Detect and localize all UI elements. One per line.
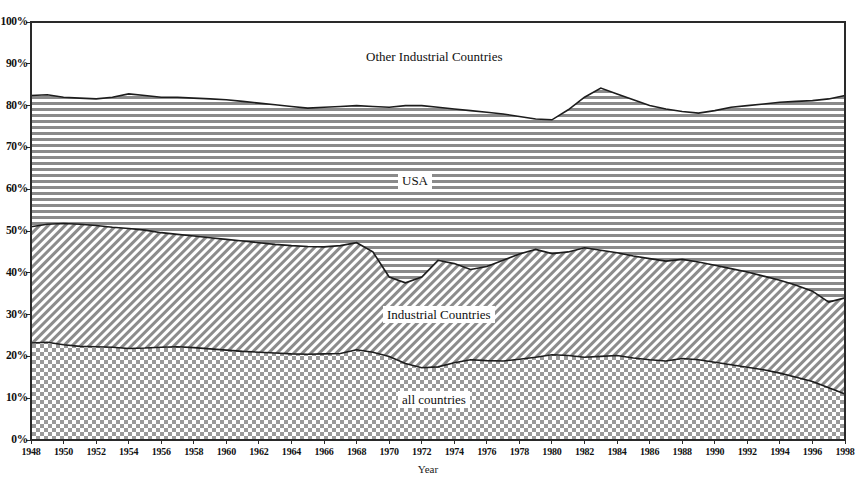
x-tick-label: 1986 [633,446,667,457]
x-tick-label: 1996 [795,446,829,457]
x-tick-label: 1972 [405,446,439,457]
series-label-industrial: Industrial Countries [383,306,495,323]
x-tick-label: 1978 [502,446,536,457]
x-tick-label: 1968 [340,446,374,457]
x-tick-label: 1964 [274,446,308,457]
y-tick-label: 20% [0,349,28,361]
x-tick-label: 1962 [242,446,276,457]
x-tick-label: 1984 [600,446,634,457]
y-tick-label: 40% [0,266,28,278]
y-tick-label: 0% [0,433,28,445]
series-label-other-industrial: Other Industrial Countries [362,48,506,65]
x-tick-label: 1976 [470,446,504,457]
x-tick-label: 1998 [828,446,857,457]
x-tick-label: 1994 [763,446,797,457]
x-tick-label: 1956 [144,446,178,457]
x-tick-label: 1982 [568,446,602,457]
series-label-all-countries: all countries [398,391,470,408]
x-tick-label: 1992 [730,446,764,457]
x-tick-label: 1948 [14,446,48,457]
x-tick-label: 1970 [372,446,406,457]
y-tick-label: 80% [0,99,28,111]
x-axis-title: Year [388,463,468,475]
y-tick-label: 30% [0,308,28,320]
x-tick-label: 1966 [307,446,341,457]
y-tick-label: 70% [0,140,28,152]
y-tick-label: 10% [0,391,28,403]
x-tick-label: 1980 [535,446,569,457]
y-tick-label: 50% [0,224,28,236]
x-tick-label: 1990 [698,446,732,457]
y-tick-label: 100% [0,15,28,27]
series-areas [31,88,845,440]
x-tick-label: 1988 [665,446,699,457]
x-tick-label: 1950 [47,446,81,457]
chart-container: 100%90%80%70%60%50%40%30%20%10%0% 194819… [0,0,857,479]
x-tick-label: 1952 [79,446,113,457]
y-tick-label: 60% [0,182,28,194]
x-tick-label: 1958 [177,446,211,457]
y-tick-label: 90% [0,57,28,69]
x-tick-label: 1960 [209,446,243,457]
x-tick-label: 1954 [112,446,146,457]
series-label-usa: USA [398,172,432,189]
x-tick-label: 1974 [437,446,471,457]
